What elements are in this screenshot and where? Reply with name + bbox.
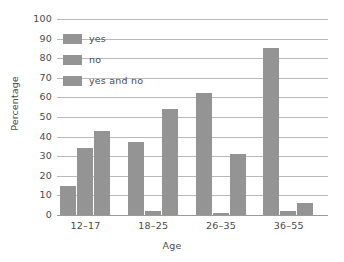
legend-item[interactable]: no [63, 54, 101, 65]
bar [280, 211, 296, 215]
y-axis-tick-label: 70 [22, 72, 52, 83]
legend-label: yes and no [89, 75, 143, 86]
gridline [57, 215, 328, 216]
bar [230, 154, 246, 215]
legend-label: no [89, 54, 101, 65]
y-axis-tick-label: 60 [22, 91, 52, 102]
x-axis-tick-label: 26–35 [191, 220, 251, 231]
x-axis-title: Age [0, 240, 344, 251]
bars-layer [57, 19, 328, 215]
bar [94, 131, 110, 215]
legend-swatch-icon [63, 55, 82, 65]
bar [196, 93, 212, 215]
bar-chart: Percentage 0102030405060708090100 12–171… [0, 0, 344, 262]
y-axis-tick-label: 10 [22, 189, 52, 200]
legend-label: yes [89, 33, 106, 44]
bar [77, 148, 93, 215]
bar [128, 142, 144, 215]
y-axis-tick-label: 20 [22, 170, 52, 181]
y-axis-tick-label: 100 [22, 13, 52, 24]
y-axis-tick-label: 90 [22, 33, 52, 44]
legend-swatch-icon [63, 76, 82, 86]
y-axis-tick-label: 0 [22, 209, 52, 220]
bar [263, 48, 279, 215]
x-axis-tick-label: 12–17 [56, 220, 116, 231]
bar [213, 213, 229, 215]
y-axis-title: Percentage [9, 59, 20, 149]
y-axis-tick-label: 80 [22, 52, 52, 63]
x-axis-tick-label: 36–55 [259, 220, 319, 231]
y-axis-tick-label: 50 [22, 111, 52, 122]
bar [145, 211, 161, 215]
legend-item[interactable]: yes and no [63, 75, 143, 86]
y-axis-tick-label: 30 [22, 150, 52, 161]
bar [297, 203, 313, 215]
plot-area [57, 19, 328, 215]
legend-swatch-icon [63, 34, 82, 44]
x-axis-tick-label: 18–25 [123, 220, 183, 231]
bar [60, 186, 76, 215]
y-axis-tick-label: 40 [22, 131, 52, 142]
bar [162, 109, 178, 215]
legend-item[interactable]: yes [63, 33, 106, 44]
